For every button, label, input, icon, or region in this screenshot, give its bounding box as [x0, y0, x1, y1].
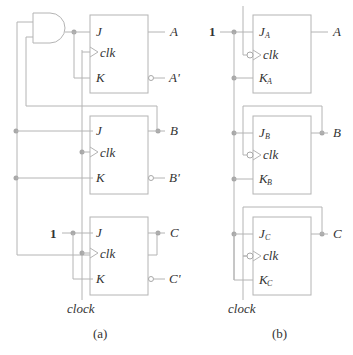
- svg-text:A: A: [169, 24, 178, 39]
- panel-b: 1 JA clk KA A JB clk KB B JC: [209, 6, 342, 341]
- svg-text:A': A': [168, 70, 180, 85]
- svg-text:B: B: [170, 123, 178, 138]
- svg-text:K: K: [95, 271, 106, 286]
- svg-text:B: B: [333, 125, 341, 140]
- svg-text:K: K: [95, 70, 106, 85]
- circuit-diagram: J clk K A A' J clk K B B' J clk K 1: [0, 0, 353, 355]
- svg-text:B': B': [169, 170, 180, 185]
- svg-text:C: C: [267, 279, 273, 288]
- svg-text:clk: clk: [263, 147, 278, 162]
- and-gate: [33, 13, 65, 43]
- svg-text:K: K: [95, 170, 106, 185]
- svg-text:A: A: [266, 77, 272, 86]
- svg-text:B: B: [267, 178, 272, 187]
- svg-text:A: A: [332, 24, 341, 39]
- svg-text:B: B: [265, 132, 270, 141]
- svg-text:clk: clk: [100, 45, 115, 60]
- svg-text:C': C': [169, 271, 181, 286]
- svg-text:A: A: [264, 31, 270, 40]
- svg-text:(b): (b): [272, 326, 287, 341]
- svg-text:clock: clock: [228, 301, 256, 316]
- svg-text:clock: clock: [67, 301, 95, 316]
- svg-text:clk: clk: [263, 248, 278, 263]
- svg-text:(a): (a): [93, 326, 107, 341]
- svg-text:clk: clk: [263, 47, 278, 62]
- svg-text:1: 1: [50, 226, 57, 241]
- svg-text:1: 1: [209, 24, 216, 39]
- svg-text:clk: clk: [100, 246, 115, 261]
- svg-text:C: C: [265, 233, 271, 242]
- svg-text:C: C: [170, 225, 179, 240]
- svg-text:C: C: [333, 226, 342, 241]
- svg-text:clk: clk: [100, 145, 115, 160]
- panel-a: J clk K A A' J clk K B B' J clk K 1: [14, 13, 181, 341]
